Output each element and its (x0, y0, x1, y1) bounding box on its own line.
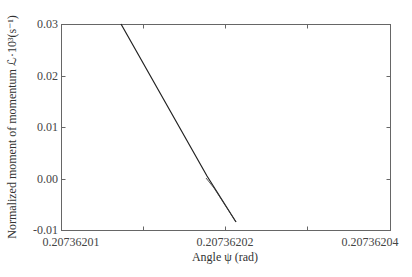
x-tick-label: 0.20736201 (43, 235, 100, 249)
data-series-loop (206, 178, 236, 222)
chart: 0.03 0.02 0.01 0.00 -0.01 0.20736201 0.2… (0, 0, 412, 277)
y-tick-label: 0.00 (37, 172, 58, 186)
plot-frame (62, 25, 391, 231)
y-ticks (62, 77, 391, 180)
x-axis-title: Angle ψ (rad) (192, 250, 258, 264)
x-tick-label: 0.20736202 (197, 235, 254, 249)
x-tick-label: 0.20736204 (342, 235, 399, 249)
data-series-line (121, 24, 236, 222)
x-ticks (144, 25, 308, 231)
y-tick-label: 0.02 (37, 69, 58, 83)
y-axis-title: Normalized moment of momentum ℒ·10³(s⁻¹) (5, 15, 19, 238)
y-tick-label: 0.01 (37, 120, 58, 134)
x-tick-labels: 0.20736201 0.20736202 0.20736204 (43, 235, 399, 249)
y-tick-labels: 0.03 0.02 0.01 0.00 -0.01 (33, 17, 58, 237)
y-tick-label: 0.03 (37, 17, 58, 31)
